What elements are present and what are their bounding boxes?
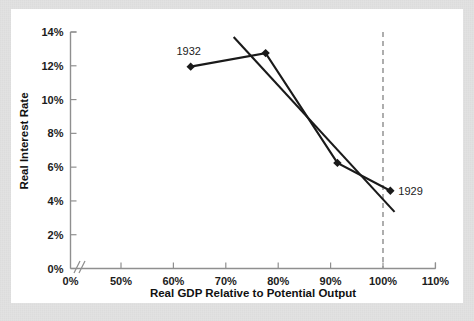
- chart-figure: 0%2%4%6%8%10%12%14% 0%50%60%70%80%90%100…: [0, 0, 474, 321]
- x-tick-label: 60%: [162, 275, 184, 287]
- chart-panel: 0%2%4%6%8%10%12%14% 0%50%60%70%80%90%100…: [11, 9, 463, 303]
- y-tick-label: 4%: [48, 195, 64, 207]
- y-tick-label: 0%: [48, 263, 64, 275]
- data-point-annotation: 1932: [176, 45, 200, 57]
- y-tick-label: 14%: [41, 26, 63, 38]
- x-axis-tick-labels: 0%50%60%70%80%90%100%110%: [63, 275, 450, 287]
- x-tick-label: 110%: [422, 275, 450, 287]
- x-tick-label: 90%: [320, 275, 342, 287]
- x-tick-label: 80%: [267, 275, 289, 287]
- y-tick-label: 10%: [41, 94, 63, 106]
- data-point-annotations: 19321929: [176, 45, 422, 197]
- x-axis-title: Real GDP Relative to Potential Output: [150, 287, 356, 299]
- x-tick-label: 70%: [215, 275, 237, 287]
- x-tick-label: 0%: [63, 275, 79, 287]
- y-axis-title: Real Interest Rate: [18, 92, 30, 189]
- y-tick-label: 2%: [48, 229, 64, 241]
- x-axis-ticks: [121, 263, 435, 269]
- data-point-marker: [186, 62, 194, 70]
- data-point-marker: [386, 187, 394, 195]
- x-tick-label: 100%: [369, 275, 397, 287]
- x-tick-label: 50%: [110, 275, 132, 287]
- observed-path-line: [191, 53, 391, 191]
- y-axis-tick-labels: 0%2%4%6%8%10%12%14%: [41, 26, 63, 275]
- axis-break-mark: [74, 261, 85, 273]
- data-point-markers: [186, 49, 394, 195]
- y-axis-ticks: [71, 32, 77, 269]
- y-tick-label: 6%: [48, 161, 64, 173]
- y-tick-label: 12%: [41, 60, 63, 72]
- y-tick-label: 8%: [48, 127, 64, 139]
- data-point-annotation: 1929: [398, 185, 422, 197]
- fitted-trend-line: [234, 37, 395, 212]
- chart-plot-area: 0%2%4%6%8%10%12%14% 0%50%60%70%80%90%100…: [11, 9, 463, 303]
